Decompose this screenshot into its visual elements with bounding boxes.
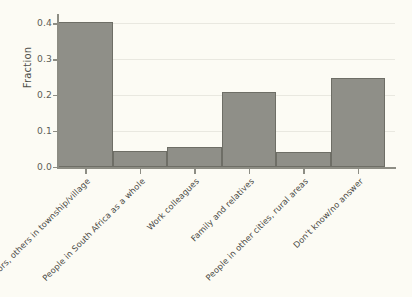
bar [222, 92, 277, 167]
x-tick-mark [140, 169, 141, 174]
y-tick-mark [53, 167, 58, 168]
y-tick-mark [53, 95, 58, 96]
bar [331, 78, 386, 167]
y-tick-label: 0.1 [6, 125, 52, 136]
y-tick-mark [53, 23, 58, 24]
x-axis-spine [57, 167, 396, 169]
figure-canvas: 0.00.10.20.30.4 Fraction Neighbors, othe… [0, 0, 412, 297]
y-axis-spine [57, 14, 59, 169]
bar [276, 152, 331, 167]
plot-area [58, 16, 385, 167]
x-tick-mark [358, 169, 359, 174]
x-tick-mark [85, 169, 86, 174]
x-tick-mark [303, 169, 304, 174]
x-tick-mark [194, 169, 195, 174]
y-axis-title: Fraction [22, 13, 33, 123]
y-tick-mark [53, 59, 58, 60]
bar [167, 147, 222, 167]
y-tick-label: 0.0 [6, 161, 52, 172]
x-tick-mark [249, 169, 250, 174]
bar [113, 151, 168, 167]
y-tick-mark [53, 131, 58, 132]
bar [58, 22, 113, 167]
